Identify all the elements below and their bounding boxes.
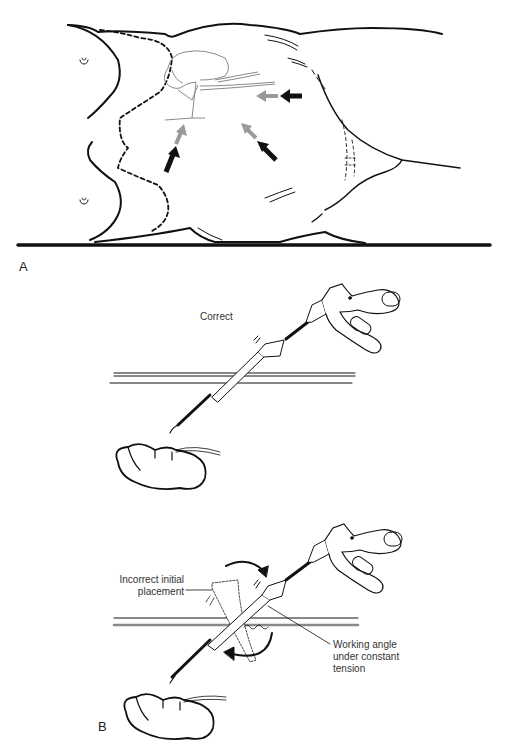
kidney-icon xyxy=(164,51,275,120)
incorrect-label-line1: Incorrect initial xyxy=(108,574,184,586)
port-arrows xyxy=(166,89,302,172)
working-angle-label: Working angle under constant tension xyxy=(333,639,399,675)
panel-a-body-illustration xyxy=(0,0,505,250)
lower-left-port-arrow-icon xyxy=(166,124,187,172)
correct-caption: Correct xyxy=(200,311,233,323)
panel-b-instrument-illustration xyxy=(0,500,505,748)
panel-label-b: B xyxy=(98,719,107,734)
medical-figure: A C xyxy=(0,0,505,748)
incorrect-label-line2: placement xyxy=(108,586,184,598)
working-label-line1: Working angle xyxy=(333,639,399,651)
incorrect-placement-label: Incorrect initial placement xyxy=(108,574,184,598)
lateral-port-arrow-icon xyxy=(256,89,302,103)
working-label-line3: tension xyxy=(333,663,399,675)
correct-instrument-illustration xyxy=(0,250,505,500)
lower-right-port-arrow-icon xyxy=(241,123,276,160)
working-label-line2: under constant xyxy=(333,651,399,663)
